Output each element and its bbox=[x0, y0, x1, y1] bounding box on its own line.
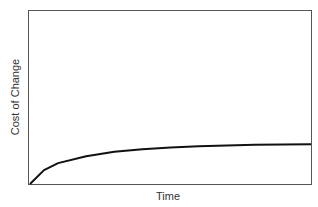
plot-frame bbox=[29, 11, 312, 185]
y-axis-label: Cost of Change bbox=[9, 59, 21, 135]
x-axis-label: Time bbox=[156, 190, 180, 202]
chart: Cost of Change Time bbox=[0, 0, 318, 207]
chart-plot bbox=[0, 0, 318, 207]
cost-curve bbox=[30, 144, 311, 184]
